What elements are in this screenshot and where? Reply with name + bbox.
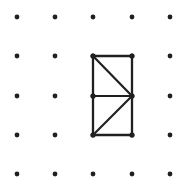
geoboard-canvas: Geoboard dot grid with subdivided rectan… <box>0 0 182 180</box>
canvas-background <box>0 0 182 180</box>
shape-vertex-mid-left <box>90 93 95 98</box>
grid-dot-r5-c1 <box>15 172 20 177</box>
grid-dot-r3-c2 <box>53 94 58 99</box>
grid-dot-r3-c5 <box>168 94 173 99</box>
grid-dot-r1-c4 <box>130 15 135 20</box>
grid-dot-r4-c2 <box>53 133 58 138</box>
dot-grid-figure-svg <box>0 0 182 180</box>
shape-vertex-bottom-right <box>129 132 134 137</box>
grid-dot-r5-c4 <box>130 172 135 177</box>
grid-dot-r5-c3 <box>91 172 96 177</box>
shape-vertex-top-left <box>90 53 95 58</box>
grid-dot-r1-c2 <box>53 15 58 20</box>
grid-dot-r1-c3 <box>91 15 96 20</box>
grid-dot-r5-c5 <box>168 172 173 177</box>
grid-dot-r4-c5 <box>168 133 173 138</box>
grid-dot-r2-c5 <box>168 54 173 59</box>
grid-dot-r1-c1 <box>15 15 20 20</box>
shape-vertex-bottom-left <box>90 132 95 137</box>
grid-dot-r1-c5 <box>168 15 173 20</box>
grid-dot-r4-c1 <box>15 133 20 138</box>
shape-vertex-top-right <box>129 53 134 58</box>
shape-vertex-mid-right <box>129 93 134 98</box>
grid-dot-r2-c2 <box>53 54 58 59</box>
grid-dot-r2-c1 <box>15 54 20 59</box>
grid-dot-r3-c1 <box>15 94 20 99</box>
grid-dot-r5-c2 <box>53 172 58 177</box>
